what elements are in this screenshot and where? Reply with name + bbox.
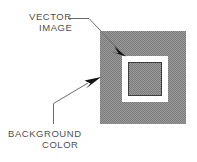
vector-image-fill bbox=[129, 63, 162, 96]
arrow-head-background-color bbox=[85, 77, 102, 89]
label-vector-image-line2: IMAGE bbox=[39, 22, 72, 33]
label-vector-image-line1: VECTOR bbox=[29, 11, 72, 22]
label-background-color-line1: BACKGROUND bbox=[8, 128, 82, 139]
figure-vector-image-diagram: VECTOR IMAGE BACKGROUND COLOR bbox=[0, 0, 197, 162]
leader-background-color bbox=[54, 77, 102, 124]
label-background-color-line2: COLOR bbox=[42, 139, 79, 150]
